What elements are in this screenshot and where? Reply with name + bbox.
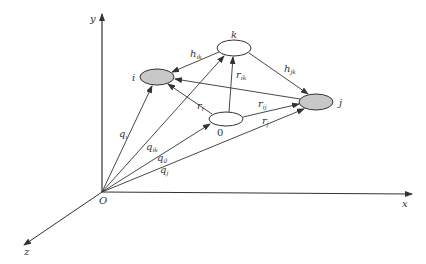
label-r-ik: rik [236,69,247,81]
vector-r-ik [229,57,233,112]
vector-diagram: y x z O i k j 0 hik hjk [0,0,426,264]
label-r-i: ri [197,100,204,112]
z-axis [24,192,102,245]
vector-r-i [168,84,212,114]
vector-r-ij [243,104,299,117]
node-j [299,94,333,110]
vector-q-j [102,109,304,192]
z-axis-label: z [23,246,30,257]
nodes: i k j 0 [132,29,342,138]
node-i [140,69,174,85]
label-q-0: q0 [157,152,167,164]
node-vectors [168,52,308,117]
y-axis-label: y [89,13,96,24]
x-axis-label: x [402,198,408,209]
label-h-jk: hjk [284,63,296,76]
vector-h-jk [249,53,308,94]
label-q-j: qj [160,164,168,177]
node-j-label: j [337,97,342,108]
label-q-i: qi [119,128,127,140]
label-h-ik: hik [190,48,202,60]
node-i-label: i [132,72,135,83]
x-axis [102,192,412,194]
origin-label: O [99,195,107,206]
node-0-label: 0 [217,127,223,138]
label-r-ij: rij [258,98,267,111]
node-k [217,40,251,56]
node-0 [209,112,243,126]
vector-j-to-i [175,79,300,99]
node-k-label: k [231,29,237,40]
